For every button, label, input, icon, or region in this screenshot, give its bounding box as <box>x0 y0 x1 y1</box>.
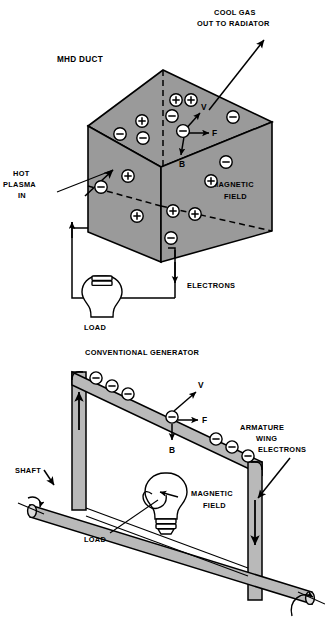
charge-minus <box>226 441 238 453</box>
magnetic-field-label-line2: FIELD <box>224 192 247 201</box>
hot-plasma-label-line2: PLASMA <box>3 180 36 189</box>
charge-minus <box>106 380 118 392</box>
velocity-vector-label: V <box>198 380 204 390</box>
hot-plasma-label-line3: IN <box>18 191 26 200</box>
magnetic-field-label-bottom-line2: FIELD <box>203 501 226 510</box>
mhd-vs-conventional-generator-figure: MHD DUCT COOL GAS OUT TO RADIATOR HOT PL… <box>0 0 325 634</box>
charge-minus <box>114 128 126 140</box>
charge-plus <box>185 94 197 106</box>
charge-plus <box>131 210 143 222</box>
magnetic-vector-label: B <box>179 159 185 169</box>
armature-wing-label-line2: WING <box>256 434 277 443</box>
load-label-top: LOAD <box>84 323 107 332</box>
velocity-vector-label: V <box>201 102 207 112</box>
electrons-label-bottom: ELECTRONS <box>258 445 306 454</box>
charge-minus <box>242 450 254 462</box>
charge-minus <box>122 388 134 400</box>
charge-minus <box>137 132 149 144</box>
charge-plus <box>136 115 148 127</box>
charge-minus <box>227 111 239 123</box>
charge-plus <box>167 205 179 217</box>
shaft-label: SHAFT <box>15 466 41 475</box>
electrons-label-top: ELECTRONS <box>187 281 235 290</box>
charge-minus <box>166 411 178 423</box>
charge-plus <box>205 175 217 187</box>
magnetic-field-label-bottom-line1: MAGNETIC <box>191 489 233 498</box>
shaft-end-right <box>306 592 315 605</box>
charge-plus <box>189 208 201 220</box>
charge-minus <box>95 181 107 193</box>
hot-plasma-label-line1: HOT <box>13 169 30 178</box>
magnetic-field-label-line1: MAGNETIC <box>212 180 254 189</box>
charge-minus <box>210 433 222 445</box>
cool-gas-label-line2: OUT TO RADIATOR <box>197 19 270 28</box>
force-vector-label: F <box>212 128 217 138</box>
cool-gas-label-line1: COOL GAS <box>214 8 256 17</box>
force-vector-label: F <box>202 415 207 425</box>
conventional-generator-title: CONVENTIONAL GENERATOR <box>85 348 200 357</box>
diagram-canvas: MHD DUCT COOL GAS OUT TO RADIATOR HOT PL… <box>0 0 325 634</box>
mhd-duct-label: MHD DUCT <box>57 55 103 64</box>
charge-plus <box>170 94 182 106</box>
charge-minus <box>220 156 232 168</box>
charge-minus <box>165 232 177 244</box>
load-label-bottom: LOAD <box>84 535 107 544</box>
magnetic-vector-label: B <box>169 445 175 455</box>
shaft-end-left <box>28 505 37 518</box>
charge-minus <box>90 372 102 384</box>
charge-minus <box>166 110 178 122</box>
armature-wing-label-line1: ARMATURE <box>240 423 284 432</box>
charge-plus <box>122 170 134 182</box>
charge-minus <box>177 125 190 138</box>
